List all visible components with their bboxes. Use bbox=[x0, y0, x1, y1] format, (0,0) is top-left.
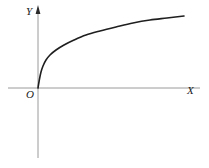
curve-path bbox=[38, 16, 184, 88]
y-axis-arrow-icon bbox=[36, 5, 41, 14]
math-figure: Y X O bbox=[0, 0, 209, 168]
y-axis-label: Y bbox=[26, 6, 32, 17]
x-axis-label: X bbox=[187, 85, 194, 96]
origin-label: O bbox=[26, 89, 34, 100]
plot-canvas bbox=[0, 0, 209, 168]
